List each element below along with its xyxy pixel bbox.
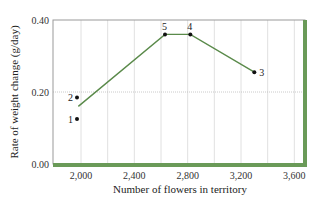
point-label-2: 2 xyxy=(68,92,73,103)
point-label-3: 3 xyxy=(259,67,264,78)
series-line xyxy=(78,34,254,106)
data-point-5 xyxy=(163,32,167,36)
x-tick-label: 2,000 xyxy=(70,170,93,181)
data-point-3 xyxy=(252,70,256,74)
x-axis-bar xyxy=(53,163,307,167)
y-tick-label: 0.40 xyxy=(32,15,50,26)
y-tick-label: 0.20 xyxy=(32,87,50,98)
grid-layer xyxy=(53,20,305,164)
line-layer xyxy=(78,34,254,106)
point-label-4: 4 xyxy=(187,21,192,32)
y-axis-title: Rate of weight change (g/day) xyxy=(8,25,21,159)
y-tick-label: 0.00 xyxy=(32,159,50,170)
x-tick-label: 2,800 xyxy=(176,170,199,181)
x-tick-label: 2,400 xyxy=(123,170,146,181)
x-tick-label: 3,200 xyxy=(230,170,253,181)
points-layer: 12543 xyxy=(68,21,264,125)
y-tick-labels: 0.000.200.40 xyxy=(32,15,50,170)
data-point-2 xyxy=(75,95,79,99)
right-frame-bar xyxy=(303,20,307,167)
point-label-1: 1 xyxy=(68,114,73,125)
chart: 12543 2,0002,4002,8003,2003,600 0.000.20… xyxy=(0,0,316,208)
x-tick-label: 3,600 xyxy=(283,170,306,181)
data-point-1 xyxy=(75,117,79,121)
data-point-4 xyxy=(188,32,192,36)
point-label-5: 5 xyxy=(162,21,167,32)
x-axis-title: Number of flowers in territory xyxy=(113,183,247,195)
x-tick-labels: 2,0002,4002,8003,2003,600 xyxy=(70,170,306,181)
